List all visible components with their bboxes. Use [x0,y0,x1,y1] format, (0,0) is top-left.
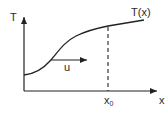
temperature-curve [24,20,144,75]
diagram-canvas: T x T(x) u x0 [0,0,168,115]
y-axis-label: T [10,11,17,23]
x-axis-label: x [159,94,165,106]
curve-label: T(x) [131,6,151,18]
x0-label: x0 [104,94,114,107]
velocity-label: u [64,61,70,73]
x0-label-subscript: 0 [110,100,114,107]
